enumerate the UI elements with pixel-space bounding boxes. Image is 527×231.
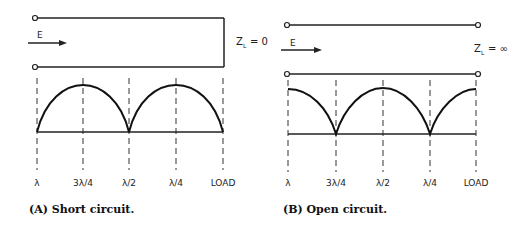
wave-direction-arrow-icon [28,40,67,46]
input-terminal-top [285,23,290,28]
load-impedance-label: Z L = 0 [236,36,268,49]
svg-text:λ/2: λ/2 [122,178,136,188]
transmission-line-diagram: E Z L = 0 λ 3λ/4 λ/2 λ/4 LOAD (A) Short … [0,0,527,231]
wave-label: E [290,38,296,48]
svg-text:λ/2: λ/2 [376,178,390,188]
caption-open-circuit: (B) Open circuit. [283,203,387,216]
svg-text:= ∞: = ∞ [488,43,508,54]
svg-text:LOAD: LOAD [464,178,489,188]
svg-text:L: L [481,49,485,56]
svg-text:λ: λ [34,178,40,188]
svg-text:= 0: = 0 [250,36,268,47]
svg-text:λ/4: λ/4 [169,178,183,188]
position-markers [37,78,223,170]
svg-text:Z: Z [236,36,243,47]
svg-text:λ/4: λ/4 [423,178,437,188]
svg-text:LOAD: LOAD [211,178,236,188]
svg-text:3λ/4: 3λ/4 [326,178,346,188]
position-tick-labels: λ 3λ/4 λ/2 λ/4 LOAD [34,178,235,188]
input-terminal-top [33,16,38,21]
svg-text:L: L [243,42,247,49]
svg-text:λ: λ [285,178,291,188]
position-tick-labels: λ 3λ/4 λ/2 λ/4 LOAD [285,178,488,188]
voltage-standing-wave [37,85,223,132]
input-terminal-bottom [33,65,38,70]
wave-label: E [37,30,43,40]
input-terminal-bottom [285,72,290,77]
output-terminal-bottom [476,72,481,77]
panel-short-circuit: E Z L = 0 λ 3λ/4 λ/2 λ/4 LOAD (A) Short … [28,16,268,217]
load-impedance-label: Z L = ∞ [474,43,508,56]
svg-text:Z: Z [474,43,481,54]
wave-direction-arrow-icon [281,47,322,53]
voltage-standing-wave [288,88,476,134]
output-terminal-top [476,23,481,28]
caption-short-circuit: (A) Short circuit. [29,203,134,216]
position-markers [288,80,476,172]
svg-text:3λ/4: 3λ/4 [73,178,93,188]
panel-open-circuit: E Z L = ∞ λ 3λ/4 λ/2 λ/4 LOAD (B) Open c… [281,23,508,217]
